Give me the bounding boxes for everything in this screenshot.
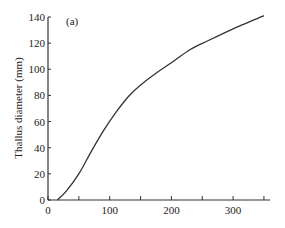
y-tick-label: 140 [29,11,46,23]
chart: 0204060801001201400100200300 (a) Thallus… [0,0,285,228]
y-tick-label: 20 [34,168,46,180]
y-axis-title: Thallus diameter (mm) [12,57,25,159]
panel-label: (a) [66,15,79,28]
x-tick-label: 100 [101,204,118,216]
y-tick-label: 120 [29,37,46,49]
x-tick-label: 200 [163,204,180,216]
y-tick-label: 40 [34,142,46,154]
tick-labels: 0204060801001201400100200300 [29,11,242,216]
data-line [57,16,264,200]
x-tick-label: 300 [225,204,242,216]
y-tick-label: 100 [29,63,46,75]
y-tick-label: 80 [34,89,46,101]
x-tick-label: 0 [45,204,51,216]
axes [48,17,270,200]
y-tick-label: 60 [34,116,46,128]
